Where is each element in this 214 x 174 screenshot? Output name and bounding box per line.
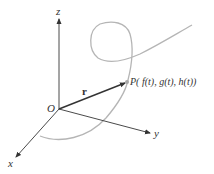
point-p-label: P( f(t), g(t), h(t)) — [130, 77, 196, 87]
diagram-canvas: z y x O r P( f(t), g(t), h(t)) — [0, 0, 214, 174]
y-axis-label: y — [154, 128, 159, 139]
diagram-svg — [0, 0, 214, 174]
y-axis — [59, 109, 150, 133]
vector-r-label: r — [82, 86, 87, 97]
point-p-marker — [125, 80, 129, 84]
x-axis-label: x — [8, 158, 13, 169]
x-axis — [16, 109, 59, 157]
origin-label: O — [47, 103, 55, 114]
position-vector-r — [59, 83, 125, 109]
z-axis-label: z — [56, 6, 60, 17]
